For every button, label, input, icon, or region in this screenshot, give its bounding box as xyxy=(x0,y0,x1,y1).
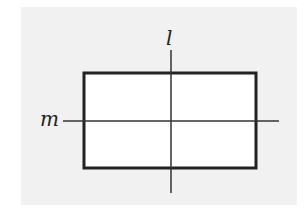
label-l: l xyxy=(166,28,172,48)
label-m: m xyxy=(40,109,59,129)
